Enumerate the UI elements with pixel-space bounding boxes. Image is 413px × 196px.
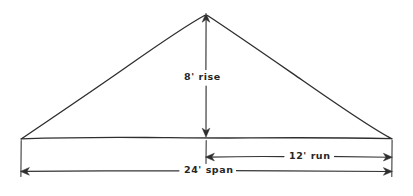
rise-dimension-label: 8' rise xyxy=(180,70,225,84)
roof-rise-run-span-diagram: 8' rise 12' run 24' span xyxy=(0,0,413,196)
base-span-line xyxy=(21,137,392,138)
right-rafter-line xyxy=(208,16,392,139)
run-dimension-label: 12' run xyxy=(286,150,334,162)
left-rafter-line xyxy=(22,16,205,139)
span-dimension-label: 24' span xyxy=(181,164,236,176)
